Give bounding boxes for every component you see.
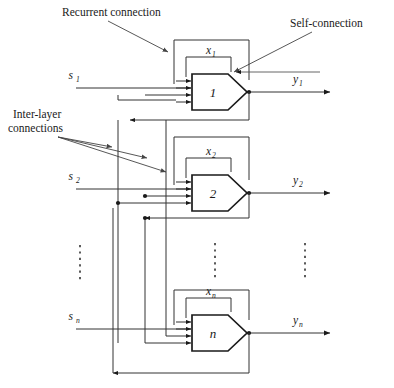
output-label-1: y (292, 73, 299, 86)
neuron-body-2 (192, 175, 247, 211)
bus-junction-c (143, 216, 147, 220)
bus-junction-b (143, 194, 147, 198)
state-label-1: x (205, 44, 212, 56)
output-label-2: y (292, 174, 299, 187)
state-sub-n: n (212, 291, 216, 300)
input-sub-1: 1 (76, 75, 80, 84)
label-inter-layer-line1: Inter-layer (13, 108, 61, 121)
recurrent-network-diagram: Recurrent connection Self-connection Int… (0, 0, 394, 388)
state-label-2: x (205, 145, 212, 157)
input-sub-2: 2 (76, 176, 80, 185)
bus-junction-a (116, 201, 120, 205)
state-sub-1: 1 (212, 50, 216, 59)
leader-interlayer-3 (58, 137, 166, 172)
label-self-connection: Self-connection (290, 17, 363, 29)
interlayer-feed-1-a (118, 95, 176, 100)
leader-recurrent (108, 21, 168, 52)
input-sub-n: n (76, 316, 80, 325)
input-label-n: s (69, 310, 74, 322)
neuron-label-2: 2 (210, 186, 217, 201)
leader-self (234, 32, 312, 72)
label-recurrent-connection: Recurrent connection (62, 6, 161, 18)
neuron-body-n (192, 315, 247, 351)
neuron-label-n: n (210, 326, 217, 341)
input-label-1: s (69, 69, 74, 81)
output-sub-1: 1 (299, 79, 303, 88)
state-label-n: x (205, 285, 212, 297)
output-sub-n: n (299, 320, 303, 329)
leader-interlayer-2 (58, 137, 147, 158)
input-label-2: s (69, 170, 74, 182)
label-inter-layer-line2: connections (8, 122, 63, 134)
output-sub-2: 2 (299, 180, 303, 189)
neuron-label-1: 1 (210, 85, 217, 100)
state-sub-2: 2 (212, 151, 216, 160)
neuron-body-1 (192, 74, 247, 110)
output-label-n: y (292, 314, 299, 327)
